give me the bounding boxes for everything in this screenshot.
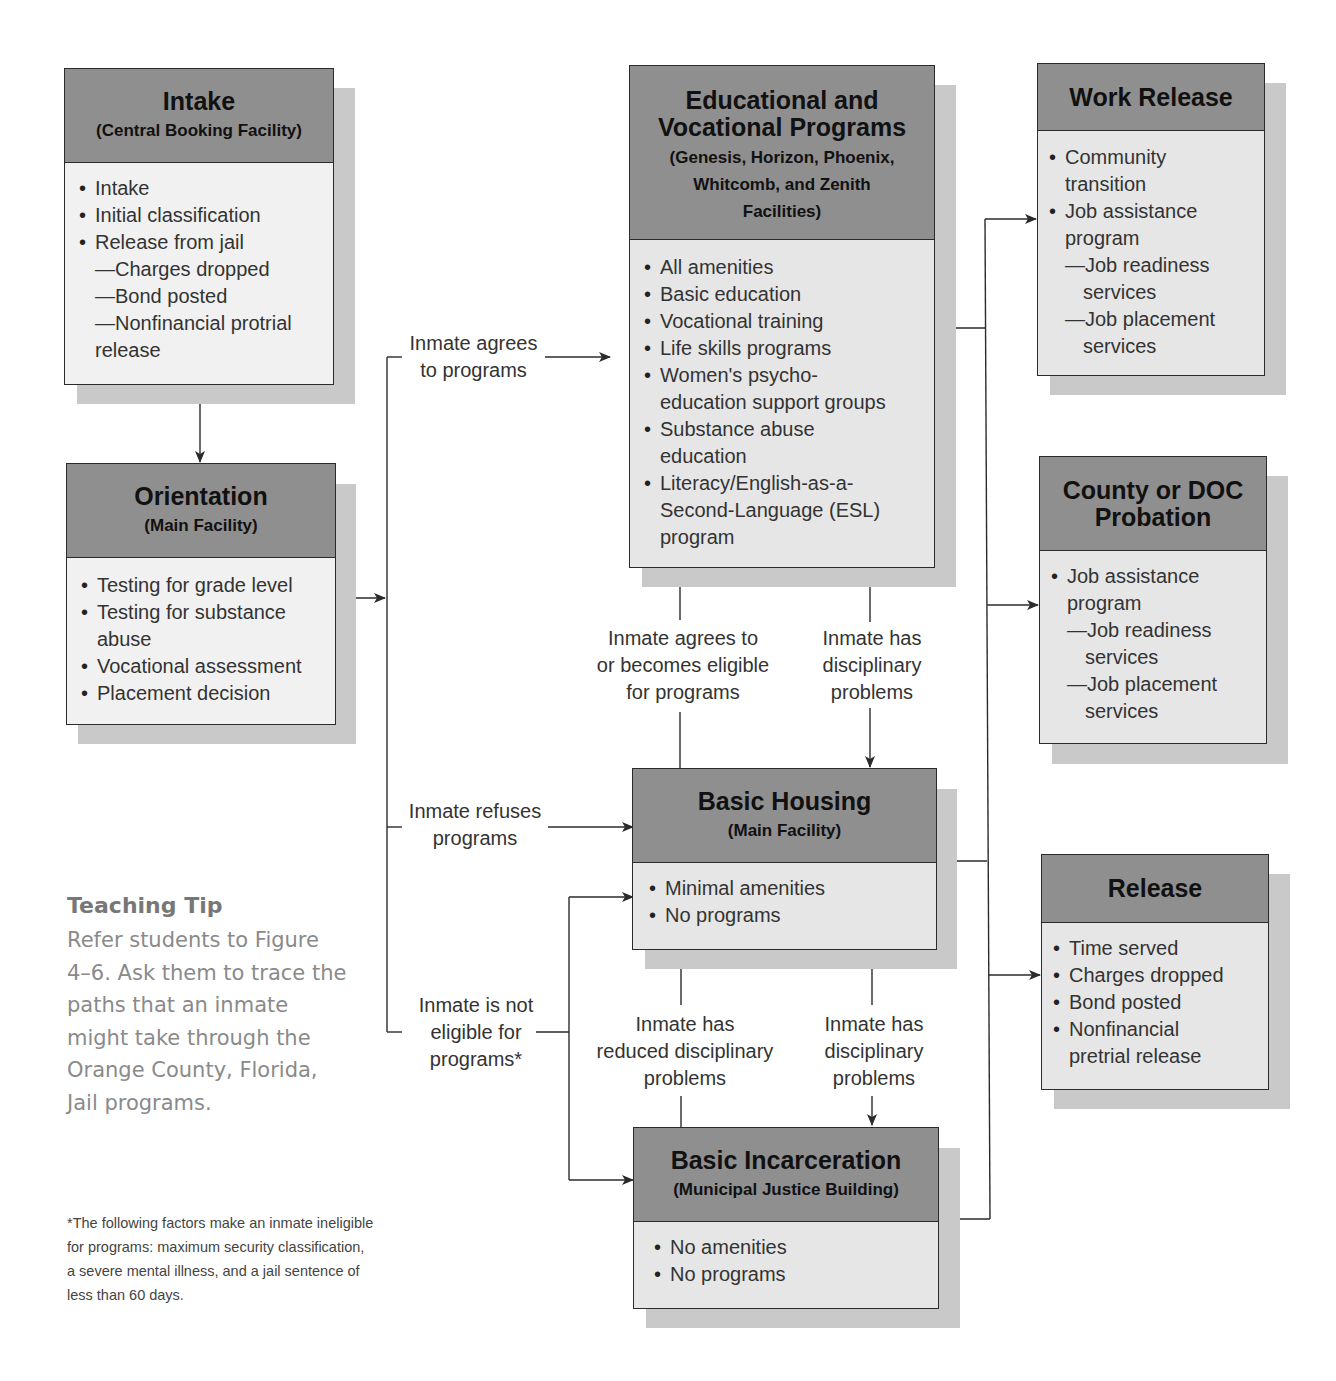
teaching-tip-title: Teaching Tip (67, 893, 222, 918)
label-refuses-programs: Inmate refuses programs (402, 798, 548, 852)
basic-incarceration-box: Basic Incarceration (Municipal Justice B… (633, 1127, 939, 1309)
label-agrees-to-programs: Inmate agrees to programs (402, 330, 545, 384)
list-item: Vocational training (660, 308, 924, 335)
educational-header: Educational and Vocational Programs (Gen… (630, 66, 934, 240)
probation-title-line1: County or DOC (1040, 477, 1266, 504)
release-title: Release (1042, 875, 1268, 902)
probation-box: County or DOC Probation Job assistancepr… (1039, 456, 1267, 744)
list-item: Intake (95, 175, 323, 202)
label-reduced-disciplinary: Inmate has reduced disciplinary problems (582, 1011, 788, 1092)
list-item: Substance abuse (660, 416, 924, 443)
list-item: services (1067, 698, 1256, 725)
incarceration-header: Basic Incarceration (Municipal Justice B… (634, 1128, 938, 1222)
list-item: services (1065, 333, 1254, 360)
housing-title: Basic Housing (633, 788, 936, 815)
list-item: Basic education (660, 281, 924, 308)
teaching-tip-body: Refer students to Figure 4–6. Ask them t… (67, 924, 367, 1119)
list-item: Literacy/English-as-a- (660, 470, 924, 497)
release-header: Release (1042, 855, 1268, 923)
list-item: Job assistance (1067, 563, 1256, 590)
list-item: —Charges dropped (95, 256, 323, 283)
footnote: *The following factors make an inmate in… (67, 1211, 457, 1307)
housing-header: Basic Housing (Main Facility) (633, 769, 936, 863)
release-body: Time servedCharges droppedBond postedNon… (1042, 923, 1268, 1078)
list-item: Community (1065, 144, 1254, 171)
list-item: Testing for grade level (97, 572, 325, 599)
basic-housing-box: Basic Housing (Main Facility) Minimal am… (632, 768, 937, 950)
educational-title-line1: Educational and (630, 87, 934, 114)
list-item: —Nonfinancial protrial (95, 310, 323, 337)
list-item: pretrial release (1069, 1043, 1258, 1070)
list-item: program (660, 524, 924, 551)
intake-subtitle: (Central Booking Facility) (65, 117, 333, 144)
list-item: —Job placement (1065, 306, 1254, 333)
list-item: program (1067, 590, 1256, 617)
list-item: Time served (1069, 935, 1258, 962)
list-item: services (1065, 279, 1254, 306)
orientation-header: Orientation (Main Facility) (67, 464, 335, 558)
list-item: Job assistance (1065, 198, 1254, 225)
list-item: Bond posted (1069, 989, 1258, 1016)
work-release-box: Work Release CommunitytransitionJob assi… (1037, 63, 1265, 376)
list-item: Minimal amenities (665, 875, 926, 902)
list-item: transition (1065, 171, 1254, 198)
list-item: —Job placement (1067, 671, 1256, 698)
housing-subtitle: (Main Facility) (633, 817, 936, 844)
list-item: All amenities (660, 254, 924, 281)
orientation-box: Orientation (Main Facility) Testing for … (66, 463, 336, 725)
incarceration-body: No amenitiesNo programs (634, 1222, 938, 1296)
educational-body: All amenitiesBasic educationVocational t… (630, 240, 934, 559)
label-becomes-eligible: Inmate agrees to or becomes eligible for… (583, 625, 783, 706)
list-item: Initial classification (95, 202, 323, 229)
intake-title: Intake (65, 88, 333, 115)
list-item: —Job readiness (1065, 252, 1254, 279)
probation-title-line2: Probation (1040, 504, 1266, 531)
label-disciplinary-lower: Inmate has disciplinary problems (812, 1011, 936, 1092)
educational-title-line2: Vocational Programs (630, 114, 934, 141)
list-item: abuse (97, 626, 325, 653)
release-box: Release Time servedCharges droppedBond p… (1041, 854, 1269, 1090)
list-item: —Bond posted (95, 283, 323, 310)
list-item: services (1067, 644, 1256, 671)
list-item: No programs (665, 902, 926, 929)
intake-header: Intake (Central Booking Facility) (65, 69, 333, 163)
list-item: Release from jail (95, 229, 323, 256)
intake-box: Intake (Central Booking Facility) Intake… (64, 68, 334, 385)
list-item: No programs (670, 1261, 928, 1288)
work-release-body: CommunitytransitionJob assistanceprogram… (1038, 131, 1264, 368)
orientation-body: Testing for grade levelTesting for subst… (67, 558, 335, 715)
list-item: Testing for substance (97, 599, 325, 626)
probation-header: County or DOC Probation (1040, 457, 1266, 551)
list-item: —Job readiness (1067, 617, 1256, 644)
list-item: Women's psycho- (660, 362, 924, 389)
list-item: No amenities (670, 1234, 928, 1261)
list-item: program (1065, 225, 1254, 252)
incarceration-subtitle: (Municipal Justice Building) (634, 1176, 938, 1203)
educational-subtitle-line1: (Genesis, Horizon, Phoenix, (630, 144, 934, 171)
educational-subtitle-line3: Facilities) (630, 198, 934, 225)
educational-box: Educational and Vocational Programs (Gen… (629, 65, 935, 568)
list-item: release (95, 337, 323, 364)
orientation-subtitle: (Main Facility) (67, 512, 335, 539)
housing-body: Minimal amenitiesNo programs (633, 863, 936, 937)
educational-subtitle-line2: Whitcomb, and Zenith (630, 171, 934, 198)
list-item: Vocational assessment (97, 653, 325, 680)
probation-body: Job assistanceprogram—Job readinessservi… (1040, 551, 1266, 733)
list-item: Nonfinancial (1069, 1016, 1258, 1043)
label-not-eligible: Inmate is not eligible for programs* (408, 992, 544, 1073)
orientation-title: Orientation (67, 483, 335, 510)
intake-body: IntakeInitial classificationRelease from… (65, 163, 333, 372)
list-item: education (660, 443, 924, 470)
work-release-header: Work Release (1038, 64, 1264, 131)
label-disciplinary-upper: Inmate has disciplinary problems (810, 625, 934, 706)
list-item: Life skills programs (660, 335, 924, 362)
incarceration-title: Basic Incarceration (634, 1147, 938, 1174)
list-item: Second-Language (ESL) (660, 497, 924, 524)
work-release-title: Work Release (1038, 84, 1264, 111)
list-item: Charges dropped (1069, 962, 1258, 989)
list-item: Placement decision (97, 680, 325, 707)
list-item: education support groups (660, 389, 924, 416)
